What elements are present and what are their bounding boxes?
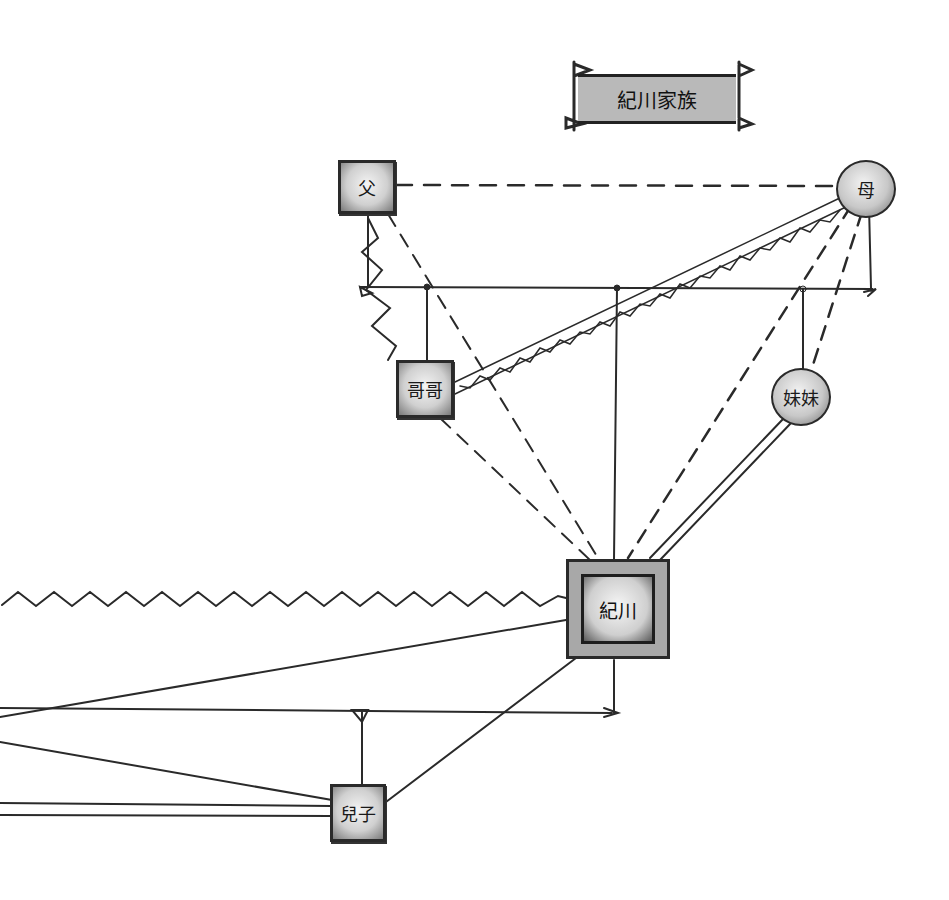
- line-son-left-b: [0, 815, 332, 816]
- line-self-conflict-left: [2, 592, 566, 606]
- node-brother-label: 哥哥: [407, 376, 443, 402]
- self-drop: [614, 288, 617, 560]
- node-self-inner: 紀川: [581, 574, 655, 644]
- node-father-label: 父: [358, 174, 376, 200]
- node-son[interactable]: 兒子: [330, 784, 386, 842]
- node-self-label: 紀川: [599, 596, 637, 623]
- lower-marriage-line: [0, 708, 612, 713]
- line-mother-sister: [812, 212, 862, 368]
- line-son-left-a: [0, 803, 332, 806]
- mother-drop-line: [869, 206, 871, 288]
- line-self-left: [0, 620, 566, 717]
- line-left-son: [0, 742, 332, 800]
- node-sister[interactable]: 妹妹: [771, 368, 831, 426]
- node-sister-label: 妹妹: [783, 384, 819, 410]
- line-sister-self-a: [650, 418, 784, 558]
- line-brother-self: [440, 418, 590, 560]
- node-mother[interactable]: 母: [836, 160, 896, 218]
- node-brother[interactable]: 哥哥: [396, 360, 454, 418]
- family-title: 紀川家族: [578, 74, 736, 124]
- line-mother-brother-fused: [455, 196, 848, 394]
- node-mother-label: 母: [857, 176, 875, 202]
- node-son-label: 兒子: [340, 800, 376, 826]
- node-self[interactable]: 紀川: [566, 559, 670, 659]
- line-sister-self-b: [660, 422, 792, 560]
- line-self-son: [382, 658, 576, 805]
- node-father[interactable]: 父: [338, 160, 396, 214]
- line-father-mother: [396, 185, 838, 186]
- genogram-lines: [0, 0, 949, 900]
- title-flag-right: [739, 62, 752, 130]
